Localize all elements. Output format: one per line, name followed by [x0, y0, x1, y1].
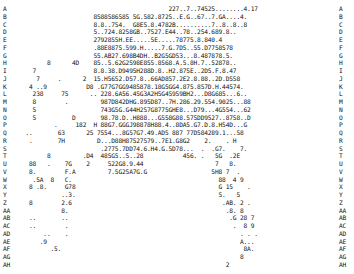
character-map-sheet: 227..7..74525........4.17AA 8588586585 5…: [0, 0, 354, 274]
row-label-left: AH: [3, 261, 10, 269]
map-row: 2AHAH: [0, 261, 354, 269]
row-label-right: AH: [339, 261, 346, 269]
row-characters: 2: [4, 261, 229, 269]
